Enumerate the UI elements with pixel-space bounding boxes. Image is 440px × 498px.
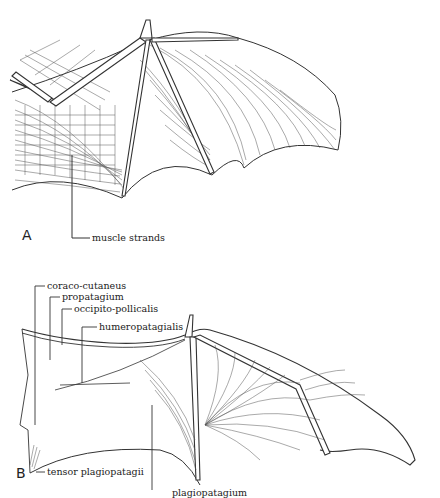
label-occipito-pollicalis: occipito-pollicalis	[74, 304, 158, 314]
label-humeropatagialis: humeropatagialis	[99, 322, 183, 332]
muscle-strands-leader-line	[0, 0, 440, 265]
label-muscle-strands: muscle strands	[92, 233, 165, 243]
label-tensor-plagiopatagii: tensor plagiopatagii	[47, 467, 144, 477]
panel-a-wing-illustration: A muscle strands	[0, 0, 440, 265]
panel-b-wing-illustration: coraco-cutaneus propatagium occipito-pol…	[0, 265, 440, 490]
label-plagiopatagium: plagiopatagium	[172, 488, 247, 498]
label-propatagium: propatagium	[62, 292, 124, 302]
label-coraco-cutaneus: coraco-cutaneus	[47, 281, 126, 291]
panel-letter-b: B	[16, 465, 26, 481]
